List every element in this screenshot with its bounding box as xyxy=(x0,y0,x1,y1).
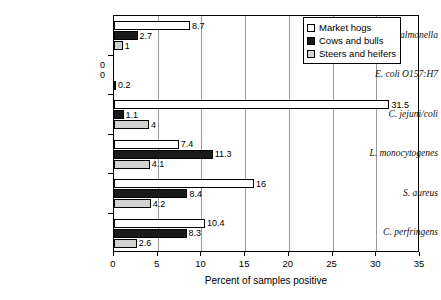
y-axis-tick xyxy=(108,94,113,95)
x-axis-tick-label: 10 xyxy=(195,258,206,269)
legend-item-steers-and-heifers: Steers and heifers xyxy=(307,47,396,60)
bar-cows-and-bulls xyxy=(114,150,213,159)
x-axis-tick xyxy=(157,252,158,256)
gridline xyxy=(245,16,246,251)
legend-item-market-hogs: Market hogs xyxy=(307,21,396,34)
bar-row: 2.6 xyxy=(114,239,418,248)
y-axis-category-label: L. monocytogenes xyxy=(329,148,441,158)
y-axis-category-label: S. aureus xyxy=(329,188,441,198)
x-axis-tick xyxy=(288,252,289,256)
bar-value-label: 10.4 xyxy=(207,218,225,228)
legend-swatch-market-hogs xyxy=(307,24,315,32)
x-axis-tick xyxy=(113,252,114,256)
legend-swatch-cows-and-bulls xyxy=(307,37,315,45)
y-axis-category-label: C. perfringens xyxy=(329,227,441,237)
bar-value-label: 16 xyxy=(256,179,266,189)
bar-row: 4 xyxy=(114,120,418,129)
y-axis-tick xyxy=(108,213,113,214)
bar-value-label: 0.2 xyxy=(118,80,131,90)
legend-label-cows-and-bulls: Cows and bulls xyxy=(319,35,383,46)
bar-market-hogs xyxy=(114,179,254,188)
x-axis-tick-label: 25 xyxy=(326,258,337,269)
x-axis-tick xyxy=(244,252,245,256)
bar-value-label: 1.1 xyxy=(126,110,139,120)
bar-cows-and-bulls xyxy=(114,31,138,40)
bar-market-hogs xyxy=(114,219,205,228)
bar-value-label: 4.2 xyxy=(153,199,166,209)
y-axis-category-label: E. coli O157:H7 xyxy=(329,69,441,79)
bar-value-label: 8.3 xyxy=(189,228,202,238)
bar-row: 4.2 xyxy=(114,199,418,208)
bar-market-hogs xyxy=(114,21,190,30)
bar-cows-and-bulls xyxy=(114,189,187,198)
x-axis-tick xyxy=(332,252,333,256)
x-axis-tick-label: 20 xyxy=(283,258,294,269)
x-axis-tick-label: 35 xyxy=(414,258,425,269)
gridline xyxy=(201,16,202,251)
y-axis-category-label: C. jejuni/coli xyxy=(329,109,441,119)
gridline xyxy=(158,16,159,251)
bar-value-label: 7.4 xyxy=(181,139,194,149)
legend-label-market-hogs: Market hogs xyxy=(319,22,371,33)
y-axis-tick xyxy=(108,134,113,135)
x-axis-tick-label: 15 xyxy=(239,258,250,269)
bar-value-label: 11.3 xyxy=(215,149,232,159)
bar-steers-and-heifers xyxy=(114,81,116,90)
bar-value-label: 0 xyxy=(100,60,105,70)
bar-market-hogs xyxy=(114,140,179,149)
bar-steers-and-heifers xyxy=(114,41,123,50)
legend: Market hogs Cows and bulls Steers and he… xyxy=(303,17,401,64)
bar-chart: 8.72.71000.231.51.147.411.34.1168.44.210… xyxy=(0,0,441,300)
bar-steers-and-heifers xyxy=(114,199,151,208)
legend-swatch-steers-and-heifers xyxy=(307,50,315,58)
bar-value-label: 4.1 xyxy=(152,159,165,169)
x-axis-tick xyxy=(419,252,420,256)
legend-label-steers-and-heifers: Steers and heifers xyxy=(319,48,396,59)
x-axis-title: Percent of samples positive xyxy=(113,275,419,286)
x-axis-tick-label: 5 xyxy=(154,258,159,269)
bar-value-label: 4 xyxy=(151,120,156,130)
bar-steers-and-heifers xyxy=(114,160,150,169)
bar-steers-and-heifers xyxy=(114,239,137,248)
bar-value-label: 1 xyxy=(125,41,130,51)
x-axis-tick xyxy=(375,252,376,256)
x-axis-tick-label: 0 xyxy=(110,258,115,269)
bar-cows-and-bulls xyxy=(114,229,187,238)
bar-value-label: 0 xyxy=(100,70,105,80)
y-axis-tick xyxy=(108,173,113,174)
bar-value-label: 8.7 xyxy=(192,21,205,31)
bar-steers-and-heifers xyxy=(114,120,149,129)
x-axis-tick xyxy=(200,252,201,256)
bar-row: 4.1 xyxy=(114,160,418,169)
gridline xyxy=(289,16,290,251)
bar-value-label: 2.7 xyxy=(140,31,153,41)
y-axis-tick xyxy=(108,55,113,56)
x-axis-tick-label: 30 xyxy=(370,258,381,269)
bar-cows-and-bulls xyxy=(114,110,124,119)
bar-row: 0.2 xyxy=(114,81,418,90)
bar-value-label: 8.4 xyxy=(189,189,202,199)
bar-value-label: 2.6 xyxy=(139,238,152,248)
legend-item-cows-and-bulls: Cows and bulls xyxy=(307,34,396,47)
